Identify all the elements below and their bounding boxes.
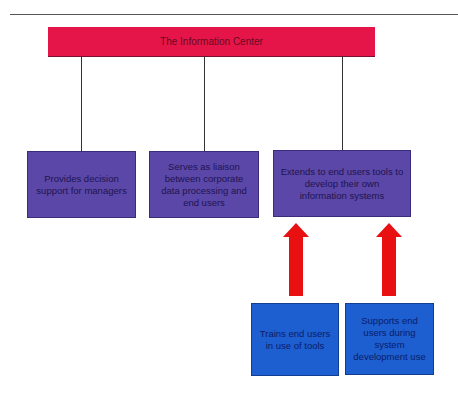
connector-line-2 [204, 56, 205, 151]
function-label: Extends to end users tools to develop th… [280, 166, 404, 202]
function-label: Serves as liaison between corporate data… [156, 161, 252, 209]
support-label: Supports end users during system develop… [352, 315, 427, 363]
header-title: The Information Center [160, 36, 263, 47]
top-divider [10, 14, 458, 15]
connector-line-3 [342, 56, 343, 150]
up-arrow-icon [282, 223, 310, 297]
up-arrow-icon [375, 223, 403, 297]
connector-line-1 [81, 56, 82, 151]
function-box-liaison: Serves as liaison between corporate data… [149, 151, 259, 218]
function-label: Provides decision support for managers [34, 173, 129, 197]
information-center-header: The Information Center [48, 27, 375, 57]
support-box-development: Supports end users during system develop… [345, 303, 434, 375]
function-box-decision-support: Provides decision support for managers [27, 151, 136, 218]
support-label: Trains end users in use of tools [258, 328, 332, 352]
function-box-end-user-tools: Extends to end users tools to develop th… [273, 150, 411, 217]
support-box-training: Trains end users in use of tools [251, 303, 339, 376]
